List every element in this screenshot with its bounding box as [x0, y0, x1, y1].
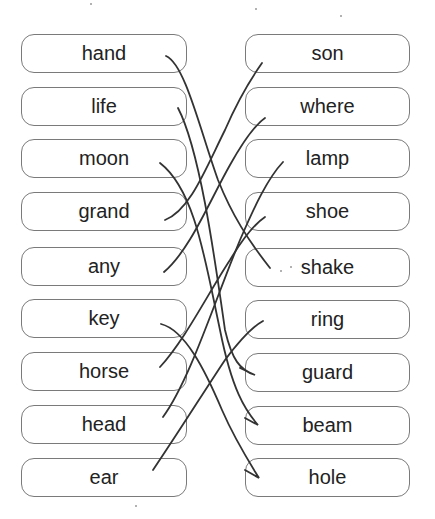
word-box-where[interactable]: where — [245, 87, 410, 126]
word-label: grand — [78, 200, 129, 223]
word-box-moon[interactable]: moon — [21, 139, 187, 178]
line-life-guard — [178, 108, 255, 375]
scan-speck — [135, 505, 137, 507]
word-box-life[interactable]: life — [21, 87, 187, 126]
word-box-horse[interactable]: horse — [21, 352, 187, 391]
word-label: hole — [309, 466, 347, 489]
word-label: lamp — [306, 147, 349, 170]
word-box-any[interactable]: any — [21, 247, 187, 286]
word-box-son[interactable]: son — [245, 34, 410, 73]
word-label: guard — [302, 361, 353, 384]
line-horse-shoe — [160, 217, 265, 367]
word-box-lamp[interactable]: lamp — [245, 139, 410, 178]
scan-speck — [280, 270, 282, 272]
word-box-shoe[interactable]: shoe — [245, 192, 410, 231]
scan-speck — [90, 3, 92, 5]
scan-speck — [255, 8, 257, 10]
word-label: where — [300, 95, 354, 118]
word-label: key — [88, 307, 119, 330]
word-box-hole[interactable]: hole — [245, 458, 410, 497]
word-box-key[interactable]: key — [21, 299, 187, 338]
scan-speck — [290, 266, 292, 268]
word-label: hand — [82, 42, 127, 65]
word-label: beam — [302, 414, 352, 437]
word-box-ear[interactable]: ear — [21, 458, 187, 497]
word-label: head — [82, 413, 127, 436]
word-box-shake[interactable]: shake — [245, 248, 410, 287]
line-key-hole — [161, 324, 259, 478]
word-box-beam[interactable]: beam — [245, 406, 410, 445]
word-label: ear — [90, 466, 119, 489]
word-label: life — [91, 95, 117, 118]
word-label: son — [311, 42, 343, 65]
word-box-guard[interactable]: guard — [245, 353, 410, 392]
word-label: ring — [311, 308, 344, 331]
word-label: moon — [79, 147, 129, 170]
word-label: horse — [79, 360, 129, 383]
scan-speck — [340, 15, 342, 17]
word-label: any — [88, 255, 120, 278]
word-label: shoe — [306, 200, 349, 223]
word-label: shake — [301, 256, 354, 279]
word-box-head[interactable]: head — [21, 405, 187, 444]
line-ear-ring — [153, 321, 263, 470]
word-box-hand[interactable]: hand — [21, 34, 187, 73]
word-box-grand[interactable]: grand — [21, 192, 187, 231]
word-box-ring[interactable]: ring — [245, 300, 410, 339]
